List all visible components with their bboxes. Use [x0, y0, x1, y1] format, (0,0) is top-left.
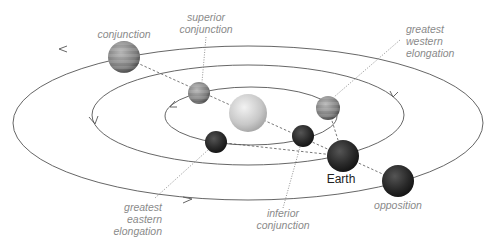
label-greatest-eastern-line3: elongation — [114, 225, 163, 237]
label-superior-conjunction-line1: superior — [187, 11, 225, 23]
label-greatest-western-line2: western — [406, 35, 443, 47]
label-inferior-conjunction-line2: conjunction — [256, 219, 309, 231]
planet-conjunction — [108, 41, 140, 73]
planetary-configurations-diagram: conjunction superior conjunction greates… — [0, 0, 498, 238]
label-inferior-conjunction-line1: inferior — [267, 207, 300, 219]
label-greatest-eastern-line2: eastern — [127, 213, 162, 225]
leader-lines — [155, 37, 400, 208]
sun — [229, 94, 267, 132]
planet-opposition — [382, 165, 414, 197]
earth — [327, 140, 359, 172]
planet-superior-conjunction — [188, 82, 210, 104]
planet-inferior-conjunction — [292, 125, 314, 147]
label-conjunction: conjunction — [97, 28, 150, 40]
label-opposition: opposition — [374, 199, 422, 211]
planet-greatest-eastern-elongation — [205, 131, 227, 153]
label-greatest-western-line3: elongation — [406, 47, 455, 59]
label-superior-conjunction-line2: conjunction — [179, 23, 232, 35]
label-greatest-western-line1: greatest — [406, 23, 445, 35]
label-earth: Earth — [327, 172, 356, 186]
label-greatest-eastern-line1: greatest — [124, 201, 163, 213]
planet-greatest-western-elongation — [316, 96, 340, 120]
